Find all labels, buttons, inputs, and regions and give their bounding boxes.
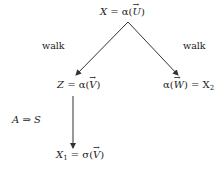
node-right: α(W) = X2	[163, 79, 214, 91]
side-annotation: A ⇒ S	[12, 114, 41, 126]
node-left-eq: = α(	[64, 79, 89, 90]
node-left-vector: V	[89, 79, 96, 91]
node-left: Z = α(V)	[57, 79, 100, 91]
node-right-pre: α(	[163, 79, 174, 90]
edge-label-left-walk: walk	[42, 40, 65, 52]
node-top: X = α(U)	[100, 6, 145, 18]
node-top-vector: U	[133, 6, 141, 18]
node-right-post: ) = X	[184, 79, 210, 90]
node-right-sub: 2	[210, 84, 214, 92]
node-left-close: )	[97, 79, 101, 90]
node-bottom: X1 = σ(V)	[56, 149, 104, 161]
node-bottom-vector: V	[93, 149, 100, 161]
node-right-vector: W	[174, 79, 184, 91]
node-bottom-eq: = σ(	[68, 149, 93, 160]
node-left-lhs: Z	[57, 79, 64, 90]
edge-top-left-arrow	[76, 22, 128, 75]
edge-top-right-arrow	[128, 22, 178, 75]
node-bottom-close: )	[100, 149, 104, 160]
node-top-close: )	[141, 6, 145, 17]
node-top-eq: = α(	[107, 6, 132, 17]
edge-label-right-walk: walk	[183, 40, 206, 52]
